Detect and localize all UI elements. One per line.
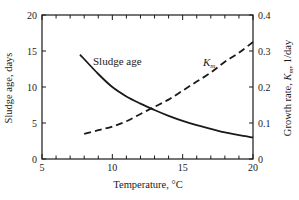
plot-border [42,15,253,159]
y-tick-label-right: 0 [258,154,263,165]
y-tick-label-left: 5 [32,118,37,129]
x-tick-label: 20 [248,162,258,173]
axis-ticks [42,15,253,159]
y-tick-label-left: 15 [27,46,37,57]
tick-labels: 51015200510152000.10.20.30.4 [27,10,271,174]
y-axis-title-left: Sludge age, days [3,53,14,124]
plot-frame [42,15,253,159]
y-tick-label-right: 0.1 [258,118,271,129]
x-axis-title: Temperature, °C [113,179,182,190]
y-axis-title-right: Growth rate, Km, 1/day [282,39,295,136]
sludge-age-line [80,55,253,138]
chart: 51015200510152000.10.20.30.4 Sludge age … [0,0,299,200]
x-tick-label: 5 [40,162,45,173]
x-tick-label: 10 [107,162,117,173]
y-tick-label-left: 20 [27,10,37,21]
y-tick-label-right: 0.2 [258,82,271,93]
y-tick-label-left: 0 [32,154,37,165]
y-tick-label-right: 0.3 [258,46,271,57]
sludge-age-annotation: Sludge age [93,55,142,67]
x-tick-label: 15 [178,162,188,173]
y-tick-label-left: 10 [27,82,37,93]
y-tick-label-right: 0.4 [258,10,271,21]
km-annotation: Km [202,56,215,70]
